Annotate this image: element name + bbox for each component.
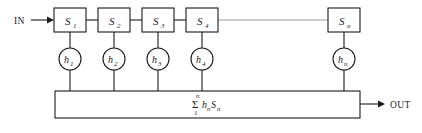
arrow-right-icon bbox=[47, 16, 54, 23]
tap-label-h1: h bbox=[64, 54, 69, 65]
summation-term-s: S bbox=[211, 99, 216, 110]
tap-label-hn: h bbox=[338, 54, 343, 65]
tap-subscript-hn: n bbox=[344, 60, 348, 68]
summation-term-s-subscript: n bbox=[217, 105, 221, 113]
block-diagram: IN S 1 S 2 S 3 S 4 S n bbox=[0, 0, 422, 133]
tap-subscript-h4: 4 bbox=[202, 60, 206, 68]
stage-label-sn: S bbox=[339, 15, 345, 27]
stage-label-s4: S bbox=[197, 15, 203, 27]
input-label: IN bbox=[14, 16, 25, 26]
tap-label-h4: h bbox=[196, 54, 201, 65]
summation-lower-limit: 1 bbox=[194, 109, 198, 117]
stage-subscript-s2: 2 bbox=[117, 22, 121, 30]
tap-label-h2: h bbox=[108, 54, 113, 65]
arrow-right-icon bbox=[378, 100, 385, 107]
stage-label-s1: S bbox=[65, 15, 71, 27]
stage-subscript-sn: n bbox=[347, 22, 351, 30]
stage-label-s3: S bbox=[153, 15, 159, 27]
tap-subscript-h3: 3 bbox=[157, 60, 162, 68]
stage-label-s2: S bbox=[109, 15, 115, 27]
tap-subscript-h1: 1 bbox=[70, 60, 74, 68]
stage-subscript-s3: 3 bbox=[160, 22, 165, 30]
stage-subscript-s1: 1 bbox=[73, 22, 77, 30]
stage-subscript-s4: 4 bbox=[205, 22, 209, 30]
tap-label-h3: h bbox=[152, 54, 157, 65]
tap-subscript-h2: 2 bbox=[114, 60, 118, 68]
output-label: OUT bbox=[390, 100, 411, 110]
diagram-canvas: IN S 1 S 2 S 3 S 4 S n bbox=[0, 0, 422, 133]
